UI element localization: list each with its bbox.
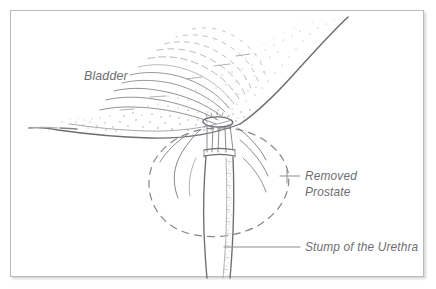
anastomosis-ring-top — [204, 149, 235, 151]
bladder-label: Bladder — [84, 69, 128, 83]
prostate-dashed-boundary — [149, 128, 289, 237]
bladder-superior-contour — [240, 17, 348, 124]
fascial-plane-right — [238, 128, 266, 160]
fold-tick — [186, 77, 202, 79]
fold-tick — [150, 96, 166, 97]
bladder-left-tip-thick — [60, 128, 77, 129]
fold-arc — [106, 97, 218, 120]
figure-root: Bladder Removed Prostate Stump of the Ur… — [0, 0, 436, 289]
fascial-plane-inner-left — [189, 158, 196, 196]
fold-arc — [114, 88, 221, 116]
urethra-right-wall — [230, 157, 234, 278]
fold-tick — [236, 54, 250, 56]
anastomosis-ring-bottom — [204, 155, 235, 157]
suture-strand — [230, 125, 233, 150]
fold-tick — [214, 64, 230, 66]
removed-prostate-outline — [149, 128, 289, 237]
removed-prostate-label-line2: Prostate — [305, 185, 351, 199]
fold-arc-dashed — [164, 42, 251, 88]
fold-arc-dashed — [188, 28, 265, 74]
stump-of-the-urethra-label: Stump of the Urethra — [305, 240, 419, 254]
anastomosis-sutures — [204, 125, 235, 157]
fold-arc-dashed — [154, 49, 245, 94]
fascial-plane-right-outer — [243, 158, 266, 192]
illustration-canvas: Bladder Removed Prostate Stump of the Ur… — [0, 0, 436, 289]
fold-tick — [120, 109, 134, 110]
fascial-plane-right-lower — [240, 140, 268, 176]
urethral-stump — [204, 156, 234, 278]
fold-arc — [100, 107, 216, 124]
removed-prostate-label-line1: Removed — [305, 169, 357, 183]
urethra-left-wall — [204, 156, 207, 278]
fascial-plane-left — [174, 130, 200, 198]
bladder — [29, 17, 348, 138]
